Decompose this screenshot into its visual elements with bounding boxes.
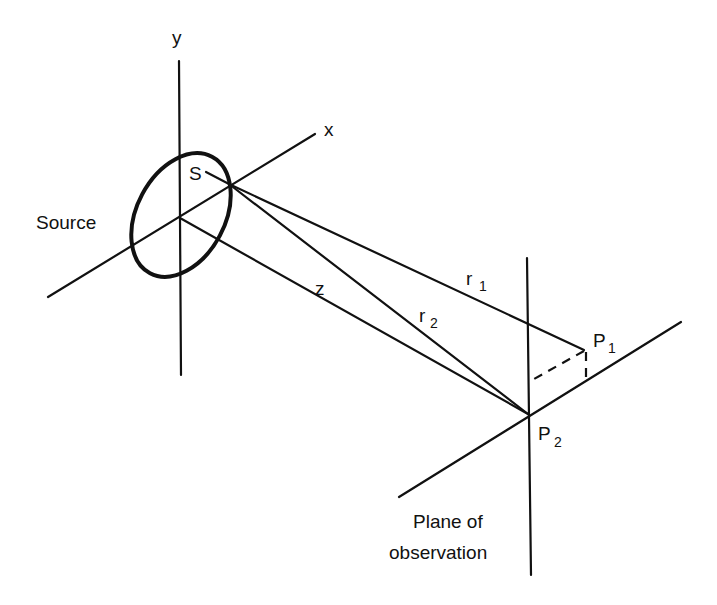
plane-label-line2: observation — [389, 542, 487, 563]
p1-subscript: 1 — [608, 340, 616, 356]
p2-letter: P — [538, 423, 551, 444]
p2-subscript: 2 — [554, 434, 562, 450]
x-axis-label: x — [324, 119, 334, 140]
ray-r2 — [229, 184, 528, 414]
r1-label: r 1 — [466, 268, 487, 294]
source-label: Source — [36, 212, 96, 233]
plane-label-line1: Plane of — [413, 511, 483, 532]
r2-label: r 2 — [419, 305, 438, 331]
z-axis — [180, 218, 528, 414]
s-point-label: S — [189, 163, 202, 184]
p1-letter: P — [593, 330, 606, 351]
ray-r1 — [229, 184, 584, 350]
r1-letter: r — [466, 268, 473, 289]
p1-dashed-projection-horizontal — [534, 351, 584, 379]
z-label: z — [315, 278, 325, 299]
r2-letter: r — [419, 305, 426, 326]
diagram-canvas: y x S Source z r 1 r 2 P 1 P 2 Plane of … — [0, 0, 717, 605]
r1-subscript: 1 — [479, 278, 487, 294]
y-axis-label: y — [172, 27, 182, 48]
z-letter: z — [315, 278, 325, 299]
p1-label: P 1 — [593, 330, 616, 356]
diffraction-geometry-diagram: y x S Source z r 1 r 2 P 1 P 2 Plane of … — [0, 0, 717, 605]
p2-label: P 2 — [538, 423, 562, 450]
r2-subscript: 2 — [430, 315, 438, 331]
